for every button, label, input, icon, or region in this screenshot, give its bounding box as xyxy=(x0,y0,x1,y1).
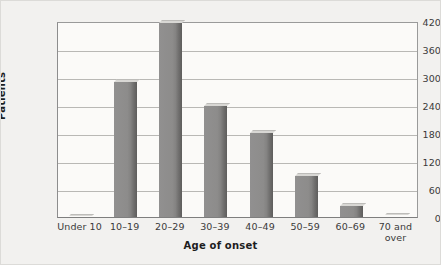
x-tick-label: 20–29 xyxy=(147,222,192,233)
bar-chart-figure: Patients 0 60 120 180 240 300 360 420 Un… xyxy=(0,0,441,265)
bar-slot xyxy=(385,23,408,217)
bar-top-face xyxy=(159,20,185,23)
bar-slot xyxy=(340,23,363,217)
bar-slot xyxy=(69,23,92,217)
bar xyxy=(340,206,363,217)
bar-top-face xyxy=(295,173,321,176)
gridline-360 xyxy=(58,51,417,52)
bar xyxy=(69,216,92,217)
x-tick-label: Under 10 xyxy=(57,222,102,233)
bar-top-face xyxy=(385,213,410,215)
bar-slot xyxy=(295,23,318,217)
gridline-60 xyxy=(58,191,417,192)
x-tick-label: 40–49 xyxy=(238,222,283,233)
bar-slot xyxy=(114,23,137,217)
y-axis-title: Patients xyxy=(0,72,7,120)
bar-top-face xyxy=(250,130,276,133)
bar-top-face xyxy=(340,203,366,206)
bar-top-face xyxy=(204,103,230,106)
x-tick-label: 50–59 xyxy=(283,222,328,233)
bar xyxy=(204,106,227,217)
gridline-180 xyxy=(58,135,417,136)
bar xyxy=(385,215,408,217)
bar xyxy=(250,133,273,217)
gridline-240 xyxy=(58,107,417,108)
plot-area xyxy=(57,22,418,218)
bar xyxy=(295,176,318,217)
gridline-300 xyxy=(58,79,417,80)
bar-top-face xyxy=(69,214,94,216)
x-tick-label: 10–19 xyxy=(102,222,147,233)
x-tick-label: 30–39 xyxy=(192,222,237,233)
x-axis-title: Age of onset xyxy=(0,240,441,251)
bar xyxy=(159,23,182,217)
bar xyxy=(114,82,137,217)
x-tick-label: 60–69 xyxy=(328,222,373,233)
bar-slot xyxy=(159,23,182,217)
bar-slot xyxy=(250,23,273,217)
bar-slot xyxy=(204,23,227,217)
gridline-120 xyxy=(58,163,417,164)
bar-top-face xyxy=(114,79,140,82)
